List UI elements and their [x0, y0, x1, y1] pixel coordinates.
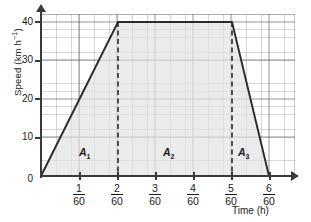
y-tick-label-20: 20 — [5, 93, 33, 104]
x-tick-label-1-60-numerator: 1 — [73, 183, 85, 194]
x-tick-label-2-60: 2 60 — [100, 183, 134, 207]
area-label-a1-text: A — [79, 146, 87, 158]
x-tick-label-5-60-numerator: 5 — [225, 183, 237, 194]
y-axis-arrow-icon — [36, 4, 46, 12]
y-tick-30 — [35, 60, 42, 62]
area-label-a3-text: A — [238, 146, 246, 158]
speed-time-graph: Speed (km h−1) 40 30 20 10 0 A1 A2 — [0, 0, 311, 222]
x-axis-arrow-icon — [291, 171, 299, 181]
y-tick-40 — [35, 21, 42, 23]
area-label-a1-subscript: 1 — [87, 153, 91, 160]
plot-area: A1 A2 A3 — [41, 14, 295, 176]
y-tick-label-10: 10 — [5, 131, 33, 142]
y-tick-label-30: 30 — [5, 54, 33, 65]
x-tick-label-4-60-denominator: 60 — [187, 194, 199, 206]
x-tick-label-3-60: 3 60 — [138, 183, 172, 207]
y-tick-20 — [35, 98, 42, 100]
x-tick-label-1-60-denominator: 60 — [73, 194, 85, 206]
x-tick-label-6-60: 6 60 — [252, 183, 286, 207]
x-axis-title: Time (h) — [232, 205, 269, 216]
area-label-a3-subscript: 3 — [246, 153, 250, 160]
x-tick-3-60 — [155, 172, 157, 180]
y-tick-label-group: 40 30 20 10 0 — [0, 0, 33, 222]
x-tick-6-60 — [269, 172, 271, 180]
y-tick-label-0: 0 — [9, 173, 33, 184]
x-tick-label-4-60: 4 60 — [176, 183, 210, 207]
x-tick-label-1-60: 1 60 — [62, 183, 96, 207]
x-tick-label-2-60-denominator: 60 — [111, 194, 123, 206]
x-tick-1-60 — [79, 172, 81, 180]
x-tick-label-6-60-numerator: 6 — [263, 183, 275, 194]
y-axis-line — [40, 10, 42, 178]
area-label-a2-subscript: 2 — [171, 153, 175, 160]
x-tick-4-60 — [193, 172, 195, 180]
shaded-area-under-curve — [41, 22, 269, 176]
area-label-a1: A1 — [79, 146, 91, 160]
x-tick-label-5-60: 5 60 — [214, 183, 248, 207]
x-tick-label-3-60-denominator: 60 — [149, 194, 161, 206]
y-tick-label-40: 40 — [5, 16, 33, 27]
x-tick-5-60 — [231, 172, 233, 180]
area-label-a2: A2 — [163, 146, 175, 160]
x-tick-label-2-60-numerator: 2 — [111, 183, 123, 194]
x-tick-label-3-60-numerator: 3 — [149, 183, 161, 194]
area-label-a2-text: A — [163, 146, 171, 158]
x-tick-2-60 — [117, 172, 119, 180]
area-label-a3: A3 — [238, 146, 250, 160]
x-tick-label-4-60-numerator: 4 — [187, 183, 199, 194]
y-tick-10 — [35, 137, 42, 139]
